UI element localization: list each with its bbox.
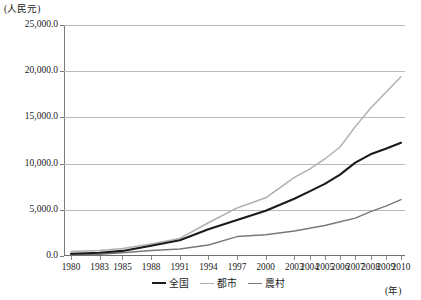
legend-item-全国: 全国 [152,276,189,290]
plot-area: 25,000.020,000.015,000.010,000.05,000.00… [64,25,405,256]
x-axis-tick [340,256,341,260]
x-axis-tick [100,256,101,260]
legend-swatch-line-icon [248,283,262,284]
x-axis-tick [122,256,123,260]
x-axis-tick-label: 1983 [90,263,109,272]
x-axis-tick [266,256,267,260]
x-axis-tick [294,256,295,260]
y-axis-tick-label: 0.0 [6,251,58,261]
legend-label: 都市 [217,276,237,290]
x-axis-tick [310,256,311,260]
x-axis-tick-label: 1994 [199,263,218,272]
y-axis-tick-label: 20,000.0 [6,66,58,76]
y-axis-tick-label: 25,000.0 [6,20,58,30]
x-axis-tick [325,256,326,260]
x-axis-tick [371,256,372,260]
x-axis-tick [180,256,181,260]
legend-item-都市: 都市 [200,276,237,290]
y-axis-tick-label: 10,000.0 [6,159,58,169]
y-axis-tick [60,256,64,257]
x-axis-tick-label: 1988 [142,263,161,272]
chart-figure: (人民元) 25,000.020,000.015,000.010,000.05,… [0,0,421,300]
legend-swatch-line-icon [152,282,166,284]
x-axis-tick [237,256,238,260]
legend-label: 農村 [265,276,285,290]
legend-item-農村: 農村 [248,276,285,290]
y-axis-tick-label: 15,000.0 [6,112,58,122]
legend-label: 全国 [169,276,189,290]
legend-swatch-line-icon [200,283,214,284]
x-axis-tick [401,256,402,260]
x-axis-unit-label: (年) [385,283,401,297]
x-axis-tick [208,256,209,260]
y-axis-unit-label: (人民元) [4,1,40,15]
series-lines [64,25,405,256]
x-axis-tick [355,256,356,260]
x-axis-tick [151,256,152,260]
x-axis-tick [71,256,72,260]
x-axis-tick [386,256,387,260]
x-axis-tick-label: 1997 [228,263,247,272]
x-axis-tick-label: 1985 [113,263,132,272]
x-axis-tick-label: 2000 [256,263,275,272]
x-axis-tick-label: 2010 [392,263,411,272]
x-axis-tick-label: 1980 [62,263,81,272]
series-line-都市 [71,77,401,252]
y-axis-tick-label: 5,000.0 [6,205,58,215]
x-axis-tick-label: 1991 [170,263,189,272]
chart-legend: 全国都市農村 [152,276,285,290]
